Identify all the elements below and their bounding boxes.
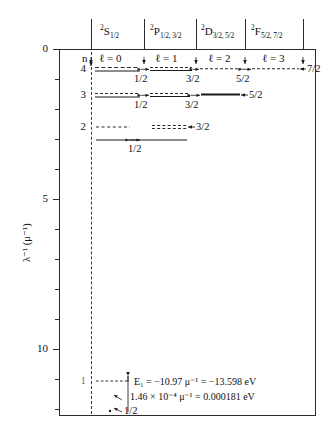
level-n3-lines (95, 94, 240, 98)
term-symbol-s: 2S1/2 (100, 22, 119, 42)
y-tick-minor (55, 409, 60, 410)
n3-j-label-1-2: 1/2 (134, 99, 147, 110)
level-n4-lines (95, 68, 299, 72)
n3-edge-j-label: 5/2 (249, 89, 262, 100)
plot-frame-right (315, 49, 316, 415)
term-symbol-p: 2P1/2, 3/2 (150, 22, 181, 42)
y-axis-line (59, 49, 60, 415)
y-tick-label-5: 5 (20, 193, 48, 204)
n4-j-label-3-2: 3/2 (186, 73, 199, 84)
level-label-n1: 1 (72, 375, 86, 386)
annotation-fine-structure-splitting: 1.46 × 10⁻⁴ μ⁻¹ = 0.000181 eV (130, 391, 255, 403)
annotation-ground-state-energy: E₁ = −10.97 μ⁻¹ = −13.598 eV (134, 376, 256, 388)
y-axis-label: λ⁻¹ (μ⁻¹) (20, 223, 32, 262)
n4-j-label-1-2: 1/2 (134, 73, 147, 84)
y-tick-minor (55, 169, 60, 170)
energy-level-diagram: 0 5 10 λ⁻¹ (μ⁻¹) 2S1/2 2P1/2, 3/2 2D3/2,… (0, 0, 327, 445)
y-tick-label-10: 10 (20, 343, 48, 354)
term-j-values: 5/2, 7/2 (261, 31, 282, 40)
y-tick-minor (55, 109, 60, 110)
header-rule-0 (91, 19, 92, 49)
n4-j-label-5-2: 5/2 (236, 73, 249, 84)
y-tick-minor (55, 289, 60, 290)
column-label-l2: ℓ = 2 (208, 52, 230, 64)
term-j-values: 1/2 (110, 31, 119, 40)
y-tick-major-5 (53, 199, 60, 200)
annotation-leaders (114, 395, 122, 412)
term-j-values: 1/2, 3/2 (160, 31, 181, 40)
n3-j-label-3-2: 3/2 (185, 99, 198, 110)
header-rule-2 (196, 19, 197, 49)
term-j-values: 3/2, 5/2 (213, 31, 234, 40)
level-label-n2: 2 (72, 121, 86, 132)
n1-level-dot (109, 410, 111, 412)
term-letter: D (205, 25, 213, 37)
column-label-l1: ℓ = 1 (155, 52, 177, 64)
n2-edge-j-label: 3/2 (196, 121, 209, 132)
y-tick-minor (55, 79, 60, 80)
y-tick-minor (55, 229, 60, 230)
header-rule-4 (303, 19, 304, 49)
column-label-l3: ℓ = 3 (262, 52, 284, 64)
y-tick-label-0: 0 (20, 43, 48, 54)
y-tick-minor (55, 379, 60, 380)
term-symbol-d: 2D3/2, 5/2 (201, 22, 234, 42)
level-label-n3: 3 (72, 89, 86, 100)
column-label-l0: ℓ = 0 (99, 52, 121, 64)
level-label-n4: 4 (72, 63, 86, 74)
y-tick-minor (55, 259, 60, 260)
term-symbol-f: 2F5/2, 7/2 (251, 22, 282, 42)
header-rule-1 (144, 19, 145, 49)
plot-frame-bottom (59, 415, 316, 416)
n-axis-dashed-line (91, 52, 92, 414)
n4-edge-j-label: 7/2 (307, 63, 320, 74)
level-n2-lines (96, 126, 187, 141)
plot-frame-top (59, 49, 316, 50)
header-rule-3 (245, 19, 246, 49)
y-tick-minor (55, 319, 60, 320)
n2-j-label-1-2: 1/2 (128, 143, 141, 154)
y-tick-major-10 (53, 349, 60, 350)
n1-j-label-1-2: 1/2 (124, 405, 137, 416)
y-tick-minor (55, 139, 60, 140)
